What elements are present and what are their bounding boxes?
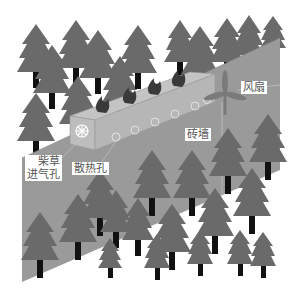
fan-label: 风扇 xyxy=(241,81,267,94)
brick-wall-label: 砖墙 xyxy=(185,128,211,141)
heat-vent-label: 散热孔 xyxy=(72,162,109,175)
scene-illustration xyxy=(0,0,300,302)
kiln-diagram: 风扇 砖墙 柴草 进气孔 散热孔 xyxy=(0,0,300,302)
fuel-inlet-label: 柴草 进气孔 xyxy=(25,155,62,181)
fuel-inlet-icon xyxy=(76,125,88,137)
